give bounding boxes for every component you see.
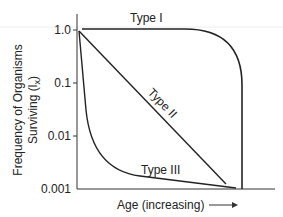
y-tick-label: 0.1	[54, 76, 71, 90]
label-type-3: Type III	[141, 163, 180, 177]
y-tick-label: 0.01	[48, 129, 72, 143]
svg-text:Surviving (lx): Surviving (lx)	[26, 76, 42, 144]
y-axis-label: Frequency of Organisms Surviving (lx)	[11, 44, 42, 175]
series-type-2	[79, 31, 226, 184]
y-tick-label: 1.0	[54, 23, 71, 37]
survivorship-chart: 1.0 0.1 0.01 0.001 Frequency of Organism…	[0, 0, 283, 217]
y-tick-label: 0.001	[41, 182, 71, 196]
label-type-1: Type I	[130, 11, 163, 25]
label-type-2: Type II	[145, 85, 180, 121]
arrow-head-icon	[232, 202, 238, 208]
svg-text:Frequency of Organisms: Frequency of Organisms	[11, 44, 25, 175]
x-axis-label: Age (increasing)	[117, 198, 204, 212]
